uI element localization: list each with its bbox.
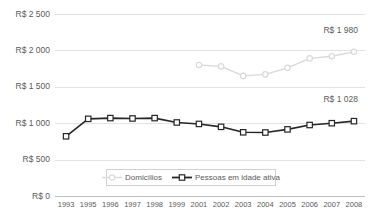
x-axis-tick-label: 1993 [58, 200, 75, 210]
x-axis-tick-label: 1998 [146, 200, 163, 210]
x-axis: 1993199519961997199819992001200220032004… [55, 200, 365, 214]
y-axis-tick-label: R$ 0 [0, 192, 50, 201]
data-point-marker [307, 56, 312, 61]
x-axis-tick-label: 1996 [102, 200, 119, 210]
x-axis-tick-label: 1999 [168, 200, 185, 210]
data-point-marker [263, 72, 268, 77]
data-point-marker [307, 122, 312, 127]
data-point-marker [285, 65, 290, 70]
data-point-marker [241, 73, 246, 78]
y-axis-tick-label: R$ 1 000 [0, 119, 50, 128]
chart-legend: DomicíliosPessoas em idade ativa [106, 169, 276, 186]
legend-item-label: Pessoas em idade ativa [195, 173, 280, 182]
y-axis-tick-label: R$ 1 500 [0, 82, 50, 91]
data-point-marker [86, 116, 91, 121]
data-point-marker [329, 54, 334, 59]
data-point-marker [285, 127, 290, 132]
data-point-marker [108, 115, 113, 120]
data-point-marker [196, 62, 201, 67]
x-axis-tick-label: 2001 [191, 200, 208, 210]
data-point-marker [196, 121, 201, 126]
chart-container: R$ 2 500R$ 2 000R$ 1 500R$ 1 000R$ 500R$… [0, 0, 368, 219]
x-axis-tick-label: 1997 [124, 200, 141, 210]
data-point-marker [351, 118, 356, 123]
legend-item-1[interactable]: Domicílios [102, 173, 162, 182]
x-axis-tick-label: 2007 [323, 200, 340, 210]
data-point-label: R$ 1 028 [323, 94, 358, 104]
series-pessoas-em-idade-ativa [63, 115, 356, 139]
x-axis-tick-label: 2002 [213, 200, 230, 210]
data-point-marker [152, 115, 157, 120]
x-axis-tick-label: 2004 [257, 200, 274, 210]
data-point-marker [263, 130, 268, 135]
y-axis-tick-label: R$ 500 [0, 155, 50, 164]
x-axis-tick-label: 2005 [279, 200, 296, 210]
data-point-marker [241, 130, 246, 135]
y-axis-tick-label: R$ 2 500 [0, 10, 50, 19]
data-point-marker [63, 134, 68, 139]
series-domic-lios [196, 49, 356, 78]
data-point-marker [218, 64, 223, 69]
legend-square-marker-icon [172, 173, 192, 182]
data-point-label: R$ 1 980 [323, 25, 358, 35]
legend-circle-marker-icon [102, 173, 122, 182]
x-axis-tick-label: 2008 [346, 200, 363, 210]
x-axis-tick-label: 1995 [80, 200, 97, 210]
x-axis-tick-label: 2003 [235, 200, 252, 210]
data-point-marker [351, 49, 356, 54]
gridline [55, 196, 365, 197]
legend-item-label: Domicílios [125, 173, 162, 182]
data-point-marker [329, 121, 334, 126]
x-axis-tick-label: 2006 [301, 200, 318, 210]
data-point-marker [174, 120, 179, 125]
data-point-marker [218, 124, 223, 129]
legend-item-2[interactable]: Pessoas em idade ativa [172, 173, 280, 182]
data-point-marker [130, 116, 135, 121]
y-axis-tick-label: R$ 2 000 [0, 46, 50, 55]
